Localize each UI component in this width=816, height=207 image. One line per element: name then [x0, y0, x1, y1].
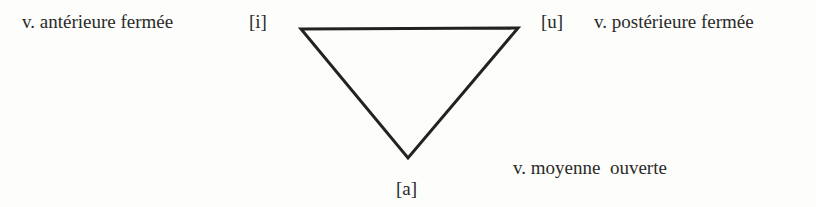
front-close-symbol: [i]: [249, 12, 267, 31]
central-open-symbol: [a]: [396, 179, 417, 198]
central-open-label: v. moyenne ouverte: [513, 158, 667, 177]
back-close-symbol: [u]: [541, 12, 563, 31]
front-close-label: v. antérieure fermée: [22, 12, 173, 31]
back-close-label: v. postérieure fermée: [594, 12, 754, 31]
